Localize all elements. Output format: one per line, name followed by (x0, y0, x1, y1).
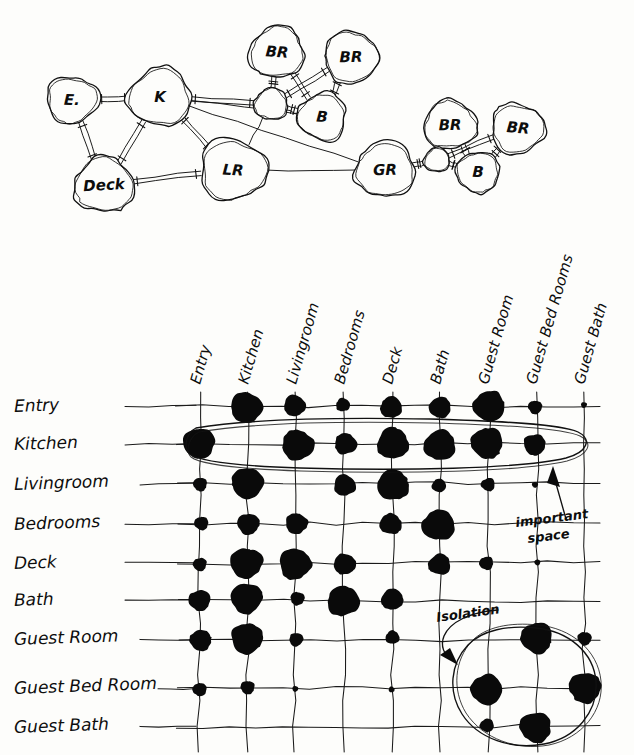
matrix-column-label: Bath (427, 348, 454, 386)
annotation-important-space-line1: important (515, 506, 590, 530)
matrix-row-label: Entry (14, 394, 61, 416)
matrix-row-label: Guest Bath (14, 714, 109, 737)
matrix-dot[interactable] (524, 434, 546, 456)
matrix-dot[interactable] (470, 673, 502, 705)
annotation-important-space-line2: space (527, 526, 571, 546)
matrix-row-leader (140, 483, 196, 485)
matrix-column-label: Livingroom (283, 301, 323, 386)
matrix-row-leader (158, 689, 196, 690)
matrix-column-label: Guest Bath (571, 301, 611, 386)
matrix-dot[interactable] (534, 560, 540, 566)
matrix-column-label: Deck (379, 344, 407, 386)
matrix-dot[interactable] (389, 686, 395, 692)
matrix-row-label: Bedrooms (14, 511, 101, 534)
matrix-row-leader (125, 600, 196, 601)
matrix-column-label: Kitchen (235, 327, 268, 386)
matrix-row-label: Guest Bed Room (14, 673, 157, 698)
annotation-important-space: important space (515, 466, 590, 546)
matrix-dot[interactable] (328, 586, 360, 617)
matrix-dot[interactable] (231, 392, 263, 423)
matrix-dot[interactable] (481, 478, 495, 492)
matrix-dot[interactable] (335, 433, 357, 455)
matrix-row-label: Kitchen (14, 432, 79, 454)
matrix-dot[interactable] (432, 479, 447, 493)
matrix-dot[interactable] (290, 592, 304, 606)
matrix-dot[interactable] (377, 469, 409, 499)
matrix-dot[interactable] (336, 398, 350, 412)
matrix-dot[interactable] (429, 397, 451, 418)
matrix-dot[interactable] (282, 430, 315, 461)
matrix-dot[interactable] (231, 584, 264, 615)
matrix-dot[interactable] (289, 633, 303, 647)
matrix-dot[interactable] (381, 588, 404, 609)
matrix-dot[interactable] (479, 719, 493, 733)
matrix-dot[interactable] (284, 394, 306, 416)
matrix-dot[interactable] (334, 474, 356, 496)
matrix-row-labels: EntryKitchenLivingroomBedroomsDeckBathGu… (14, 394, 196, 737)
matrix-dot[interactable] (240, 681, 254, 694)
matrix-row-leader (140, 726, 196, 727)
matrix-dot[interactable] (280, 549, 313, 580)
matrix-row-label: Deck (14, 551, 59, 573)
matrix-column-label: Guest Bed Rooms (523, 252, 577, 386)
matrix-dot[interactable] (292, 686, 298, 692)
matrix-dot[interactable] (379, 513, 401, 534)
matrix-dot[interactable] (479, 557, 493, 570)
diagram-canvas: E.KBRBRBLRDeckGRBRBRB EntryKitchenLiving… (0, 0, 634, 755)
matrix-dots (183, 391, 602, 743)
matrix-dot[interactable] (519, 713, 551, 743)
matrix-dot[interactable] (470, 428, 502, 459)
matrix-dot[interactable] (286, 513, 308, 534)
matrix-dot[interactable] (231, 623, 263, 655)
matrix-dot[interactable] (230, 548, 263, 579)
matrix-dot[interactable] (193, 478, 207, 491)
matrix-dot[interactable] (232, 468, 265, 499)
matrix-column-label: Bedrooms (331, 308, 369, 386)
matrix-dot[interactable] (423, 429, 455, 460)
matrix-dot[interactable] (421, 509, 455, 539)
matrix-row-label: Guest Room (14, 625, 119, 649)
matrix-row-leader (140, 639, 196, 640)
matrix-dot[interactable] (428, 553, 450, 574)
matrix-dot[interactable] (472, 391, 504, 422)
matrix-dot[interactable] (237, 514, 260, 535)
matrix-dot[interactable] (386, 630, 400, 644)
matrix-dot[interactable] (183, 429, 215, 459)
matrix-column-label: Entry (187, 342, 216, 386)
matrix-dot[interactable] (192, 683, 206, 696)
matrix-row-label: Livingroom (14, 471, 110, 494)
matrix-dot[interactable] (577, 632, 591, 646)
matrix-dot[interactable] (194, 517, 208, 531)
matrix-dot[interactable] (188, 590, 210, 611)
annotation-isolation-label: Isolation (435, 601, 500, 625)
matrix-row-label: Bath (14, 589, 54, 610)
annotation-isolation: Isolation (435, 601, 500, 665)
matrix-column-labels: EntryKitchenLivingroomBedroomsDeckBathGu… (187, 252, 611, 386)
matrix-row-leader (125, 562, 196, 563)
matrix-dot[interactable] (380, 396, 402, 418)
adjacency-matrix: EntryKitchenLivingroomBedroomsDeckBathGu… (0, 0, 634, 755)
matrix-dot[interactable] (377, 427, 409, 459)
matrix-dot[interactable] (189, 630, 212, 652)
matrix-dot[interactable] (193, 558, 207, 571)
matrix-dot[interactable] (528, 401, 542, 415)
matrix-dot[interactable] (334, 553, 356, 574)
matrix-column-label: Guest Room (475, 292, 518, 386)
